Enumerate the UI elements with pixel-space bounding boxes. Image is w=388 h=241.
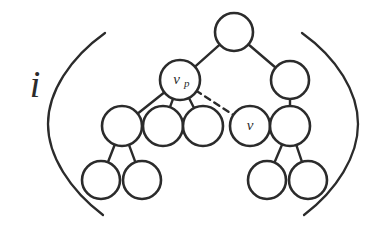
tree-node-label: v xyxy=(247,117,254,133)
tree-node xyxy=(289,161,327,199)
tree-node xyxy=(82,161,120,199)
tree-edge xyxy=(248,44,277,69)
tree-node-circle xyxy=(183,106,223,146)
tree-edge xyxy=(296,144,302,163)
tree-node-circle xyxy=(123,161,161,199)
tree-node-circle xyxy=(270,106,310,146)
tree-edge xyxy=(129,144,136,163)
tree-node: v xyxy=(230,106,270,146)
nodes-layer: vpv xyxy=(82,13,327,199)
tree-node-circle xyxy=(271,61,309,99)
tree-node xyxy=(215,13,253,51)
index-label: i xyxy=(30,63,41,105)
tree-node xyxy=(102,106,142,146)
tree-node xyxy=(270,106,310,146)
tree-node-circle xyxy=(160,60,200,100)
tree-edge xyxy=(194,44,220,67)
tree-edge xyxy=(108,144,116,164)
tree-edge xyxy=(274,143,283,163)
tree-node xyxy=(143,106,183,146)
tree-node-circle xyxy=(248,161,286,199)
tree-node xyxy=(183,106,223,146)
tree-diagram-canvas: vpv i xyxy=(0,0,388,241)
tree-node-circle xyxy=(289,161,327,199)
tree-node xyxy=(123,161,161,199)
tree-node-circle xyxy=(215,13,253,51)
tree-node-label-subscript: p xyxy=(183,77,190,89)
tree-node xyxy=(271,61,309,99)
tree-node-label: v xyxy=(173,71,180,87)
tree-node-circle xyxy=(82,161,120,199)
tree-node: vp xyxy=(160,60,200,100)
tree-figure: vpv i xyxy=(0,0,388,241)
tree-node-circle xyxy=(143,106,183,146)
tree-node-circle xyxy=(102,106,142,146)
tree-node xyxy=(248,161,286,199)
